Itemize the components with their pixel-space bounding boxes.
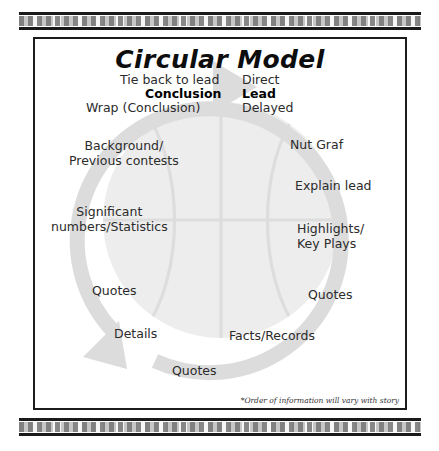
top-rule-texture (19, 16, 421, 26)
top-rule-line-upper (19, 12, 421, 15)
bottom-rule-line-upper (19, 418, 421, 421)
bottom-rule-texture (19, 422, 421, 432)
page-title: Circular Model (35, 45, 405, 74)
diagram-label-highlights-key-plays: Highlights/ Key Plays (297, 222, 364, 251)
diagram-label-quotes-right-lower: Quotes (308, 288, 353, 303)
bottom-rule-band (19, 418, 421, 436)
diagram-label-background-previous: Background/ Previous contests (69, 139, 179, 168)
diagram-label-delayed: Delayed (242, 101, 293, 116)
diagram-label-nut-graf: Nut Graf (290, 138, 343, 153)
diagram-label-quotes-left-upper: Quotes (92, 284, 137, 299)
bottom-rule-line-lower (19, 433, 421, 436)
top-rule-line-lower (19, 27, 421, 30)
top-rule-band (19, 12, 421, 30)
diagram-label-wrap-conclusion: Wrap (Conclusion) (86, 101, 200, 116)
footnote: *Order of information will vary with sto… (241, 396, 399, 405)
diagram-label-significant-numbers: Significant numbers/Statistics (51, 205, 168, 234)
diagram-panel: Circular Model Tie back to leadConclusio… (33, 37, 407, 410)
diagram-label-quotes-bottom: Quotes (172, 364, 217, 379)
page-root: Circular Model Tie back to leadConclusio… (0, 0, 439, 451)
diagram-label-details: Details (114, 327, 157, 342)
diagram-label-explain-lead: Explain lead (295, 179, 372, 194)
diagram-label-facts-records: Facts/Records (229, 329, 315, 344)
